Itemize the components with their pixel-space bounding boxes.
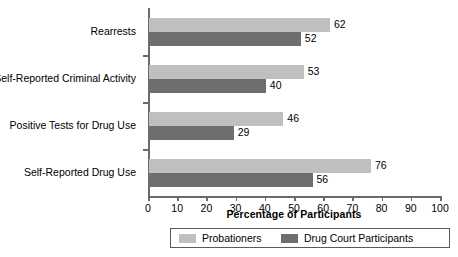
bar <box>149 159 371 173</box>
bar-value-label: 46 <box>287 113 299 124</box>
x-axis-title: Percentage of Participants <box>148 208 440 220</box>
bar <box>149 65 304 79</box>
bar <box>149 112 283 126</box>
x-axis-tick <box>382 196 384 201</box>
category-label: Positive Tests for Drug Use <box>10 120 136 131</box>
bar-chart: RearrestsSelf-Reported Criminal Activity… <box>0 0 458 257</box>
bar-value-label: 76 <box>375 160 387 171</box>
legend-entry-drug-court-participants: Drug Court Participants <box>281 232 413 245</box>
y-axis-tick <box>143 102 148 104</box>
bar-value-label: 40 <box>270 80 282 91</box>
x-axis-tick <box>440 196 442 201</box>
legend-swatch-drug-court-participants <box>281 234 298 243</box>
x-axis-tick <box>236 196 238 201</box>
category-label: Self-Reported Criminal Activity <box>0 73 136 84</box>
bar <box>149 18 330 32</box>
legend-label-drug-court-participants: Drug Court Participants <box>304 233 413 244</box>
bar-value-label: 29 <box>238 127 250 138</box>
bar-value-label: 53 <box>308 66 320 77</box>
y-axis-tick <box>143 149 148 151</box>
x-axis-tick <box>206 196 208 201</box>
legend-entry-probationers: Probationers <box>179 232 262 245</box>
x-axis-tick <box>352 196 354 201</box>
bar-value-label: 56 <box>317 174 329 185</box>
bar <box>149 126 234 140</box>
legend-swatch-probationers <box>179 234 196 243</box>
y-axis-tick <box>143 55 148 57</box>
category-label: Self-Reported Drug Use <box>24 167 136 178</box>
category-label: Rearrests <box>90 26 136 37</box>
plot-area: 01020304050607080901006252534046297656 <box>148 8 440 196</box>
x-axis-tick <box>411 196 413 201</box>
x-axis-tick <box>323 196 325 201</box>
x-axis-tick <box>265 196 267 201</box>
bar-value-label: 52 <box>305 33 317 44</box>
legend-label-probationers: Probationers <box>202 233 262 244</box>
x-axis-tick <box>177 196 179 201</box>
bar <box>149 173 313 187</box>
x-axis-tick <box>148 196 150 201</box>
category-axis-labels: RearrestsSelf-Reported Criminal Activity… <box>0 0 142 196</box>
x-axis-tick <box>294 196 296 201</box>
chart-legend: Probationers Drug Court Participants <box>170 228 450 248</box>
bar <box>149 79 266 93</box>
bar-value-label: 62 <box>334 19 346 30</box>
bar <box>149 32 301 46</box>
